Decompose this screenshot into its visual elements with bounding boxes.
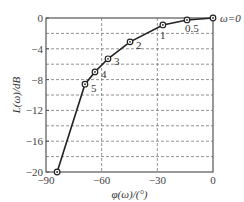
data-point-center	[212, 17, 214, 19]
nichols-chart: −90−60−300 0−4−8−12−16−20 543210.5ω=0 φ(…	[0, 0, 244, 202]
y-tick-label: 0	[38, 12, 44, 24]
data-point-center	[107, 58, 109, 60]
data-point-center	[186, 19, 188, 21]
y-axis-label: L(ω)/dB	[10, 76, 23, 114]
data-label: 4	[101, 68, 107, 80]
x-ticks: −90−60−300	[37, 174, 216, 186]
y-tick-label: −16	[26, 135, 44, 147]
data-point-center	[56, 171, 58, 173]
data-label: ω=0	[220, 12, 241, 24]
data-label: 5	[91, 82, 97, 94]
y-tick-label: −20	[26, 166, 44, 178]
data-point-center	[84, 83, 86, 85]
x-tick-label: −60	[93, 174, 111, 186]
data-label: 3	[114, 55, 120, 67]
x-tick-label: −30	[149, 174, 167, 186]
data-point-center	[129, 41, 131, 43]
x-axis-label: φ(ω)/(°)	[112, 188, 148, 201]
y-tick-label: −12	[26, 104, 43, 116]
data-point-center	[162, 24, 164, 26]
data-label: 0.5	[185, 22, 199, 34]
y-tick-label: −4	[31, 43, 43, 55]
data-point-center	[94, 71, 96, 73]
data-label: 2	[136, 39, 142, 51]
x-tick-label: 0	[210, 174, 216, 186]
data-label: 1	[160, 29, 166, 41]
y-tick-label: −8	[31, 74, 43, 86]
